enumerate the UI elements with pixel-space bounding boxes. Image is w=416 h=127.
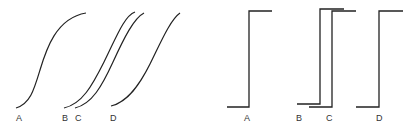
figure: ABCD ABCD: [0, 0, 416, 127]
step-functions-panel: ABCD: [227, 9, 403, 123]
sigmoid-curves-panel: ABCD: [16, 12, 180, 123]
step-label-a: A: [244, 113, 250, 123]
step-curve-d: [356, 11, 403, 107]
sigmoid-label-b: B: [62, 113, 68, 123]
sigmoid-curve-b: [64, 12, 135, 108]
step-curve-c: [309, 11, 356, 107]
sigmoid-label-a: A: [16, 113, 22, 123]
sigmoid-label-d: D: [110, 113, 117, 123]
step-label-d: D: [376, 113, 383, 123]
sigmoid-label-c: C: [75, 113, 82, 123]
step-curve-a: [227, 11, 272, 107]
step-curve-b: [297, 9, 344, 104]
step-label-c: C: [326, 113, 333, 123]
sigmoid-curve-a: [16, 13, 86, 108]
step-label-b: B: [296, 113, 302, 123]
